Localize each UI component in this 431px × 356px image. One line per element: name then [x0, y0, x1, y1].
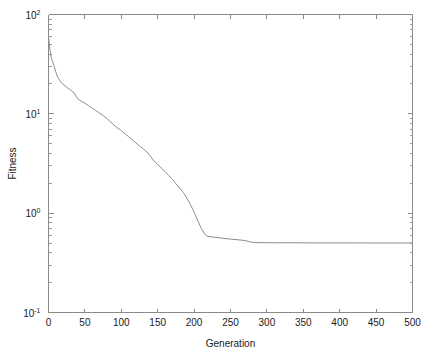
series-line-best-fitness [49, 37, 413, 243]
x-tick-label: 500 [404, 317, 421, 328]
x-tick-label: 400 [331, 317, 348, 328]
y-tick-label: 100 [25, 207, 40, 219]
figure-semilog-fitness-plot: 05010015020025030035040045050010-1100101… [0, 0, 431, 356]
y-axis-title-text: Fitness [7, 147, 18, 179]
x-tick-label: 450 [368, 317, 385, 328]
chart-canvas: 05010015020025030035040045050010-1100101… [0, 0, 431, 356]
y-axis-ticks: 10-1100101102 [23, 9, 412, 319]
x-tick-label: 0 [46, 317, 52, 328]
x-tick-label: 100 [113, 317, 130, 328]
y-tick-label: 102 [25, 9, 40, 21]
x-tick-label: 200 [186, 317, 203, 328]
x-axis-ticks: 050100150200250300350400450500 [46, 15, 422, 328]
x-tick-label: 150 [149, 317, 166, 328]
y-tick-label: 10-1 [23, 307, 40, 319]
x-tick-label: 50 [79, 317, 91, 328]
y-tick-label: 101 [25, 108, 40, 120]
x-tick-label: 300 [259, 317, 276, 328]
x-tick-label: 250 [222, 317, 239, 328]
x-axis-title-text: Generation [206, 338, 255, 349]
x-tick-label: 350 [295, 317, 312, 328]
